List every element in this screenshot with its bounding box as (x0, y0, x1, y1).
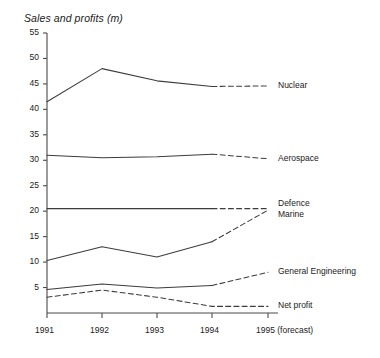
x-axis-tick-label: 1992 (90, 325, 109, 335)
y-axis-tick-label: 55 (17, 27, 39, 37)
series-line-net-profit (47, 290, 268, 306)
y-axis-tick-label: 10 (17, 256, 39, 266)
series-label-aerospace: Aerospace (278, 153, 319, 163)
series-line-nuclear (47, 69, 212, 102)
y-axis-tick-label: 30 (17, 154, 39, 164)
series-line-marine (47, 242, 212, 261)
y-axis-tick-label: 40 (17, 103, 39, 113)
series-label-defence: Defence (278, 198, 310, 208)
y-axis-tick-label: 15 (17, 231, 39, 241)
chart-series-lines (47, 69, 268, 307)
y-axis-tick-label: 50 (17, 52, 39, 62)
y-axis-tick-label: 25 (17, 180, 39, 190)
y-axis-tick-label: 35 (17, 129, 39, 139)
series-label-marine: Marine (278, 209, 304, 219)
series-forecast-general-engineering (212, 272, 268, 285)
series-forecast-nuclear (212, 86, 268, 87)
x-axis-tick-label: 1993 (145, 325, 164, 335)
y-axis-tick-label: 5 (17, 282, 39, 292)
series-label-nuclear: Nuclear (278, 80, 307, 90)
plot-area (0, 0, 380, 358)
series-line-general-engineering (47, 284, 212, 290)
series-label-net-profit: Net profit (278, 300, 313, 310)
x-axis-tick-label: 1995 (forecast) (256, 325, 313, 335)
chart-axes (43, 33, 278, 318)
series-line-aerospace (47, 154, 212, 158)
y-axis-tick-label: 20 (17, 205, 39, 215)
x-axis-tick-label: 1994 (200, 325, 219, 335)
series-label-general-engineering: General Engineering (278, 266, 356, 276)
series-forecast-marine (212, 210, 268, 242)
x-axis-tick-label: 1991 (35, 325, 54, 335)
y-axis-tick-label: 45 (17, 78, 39, 88)
series-forecast-aerospace (212, 154, 268, 159)
sales-and-profits-line-chart: Sales and profits (m) 555045403530252015… (0, 0, 380, 358)
